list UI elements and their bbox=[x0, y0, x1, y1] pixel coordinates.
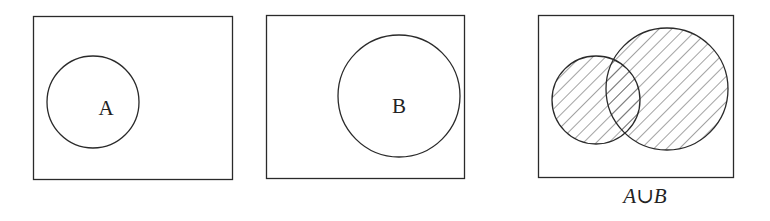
diagram-set-a: A bbox=[34, 17, 233, 180]
circle-a bbox=[47, 56, 139, 148]
universe-rect bbox=[267, 16, 465, 179]
venn-diagrams: A B A∪B bbox=[0, 0, 770, 221]
label-a: A bbox=[98, 96, 114, 120]
diagram-set-b: B bbox=[267, 16, 465, 179]
label-b: B bbox=[392, 94, 406, 118]
union-caption: A∪B bbox=[621, 184, 666, 208]
diagram-union: A∪B bbox=[539, 16, 734, 209]
universe-rect bbox=[34, 17, 233, 180]
